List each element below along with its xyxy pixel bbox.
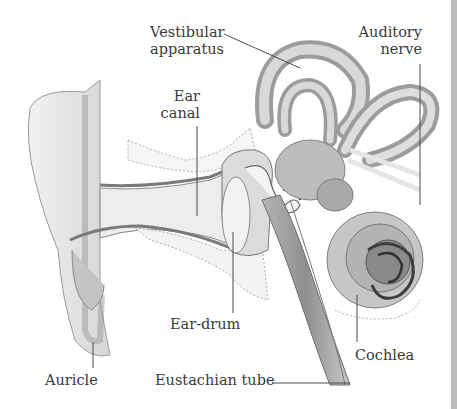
ear-drum-label: Ear-drum: [170, 316, 240, 333]
cochlea-shape: [327, 212, 423, 319]
auricle-shape: [28, 80, 110, 356]
ear-diagram: Vestibular apparatus Auditory nerve Ear …: [0, 0, 457, 409]
page-edge-bar: [451, 0, 457, 409]
auditory-label-line2: nerve: [350, 41, 422, 58]
ear-canal-label-line2: canal: [150, 105, 200, 122]
vestibular-apparatus-shape: [264, 49, 431, 211]
eustachian-tube-shape: [262, 195, 350, 385]
auditory-nerve-label: Auditory nerve: [350, 24, 422, 58]
vestibular-apparatus-label: Vestibular apparatus: [150, 24, 224, 58]
auricle-label: Auricle: [45, 372, 98, 389]
ear-canal-label-line1: Ear: [150, 88, 200, 105]
auditory-label-line1: Auditory: [350, 24, 422, 41]
eustachian-tube-label: Eustachian tube: [155, 372, 275, 389]
cochlea-label: Cochlea: [355, 347, 414, 364]
vestibular-label-line2: apparatus: [150, 41, 224, 58]
vestibular-label-line1: Vestibular: [150, 24, 224, 41]
ear-canal-label: Ear canal: [150, 88, 200, 122]
